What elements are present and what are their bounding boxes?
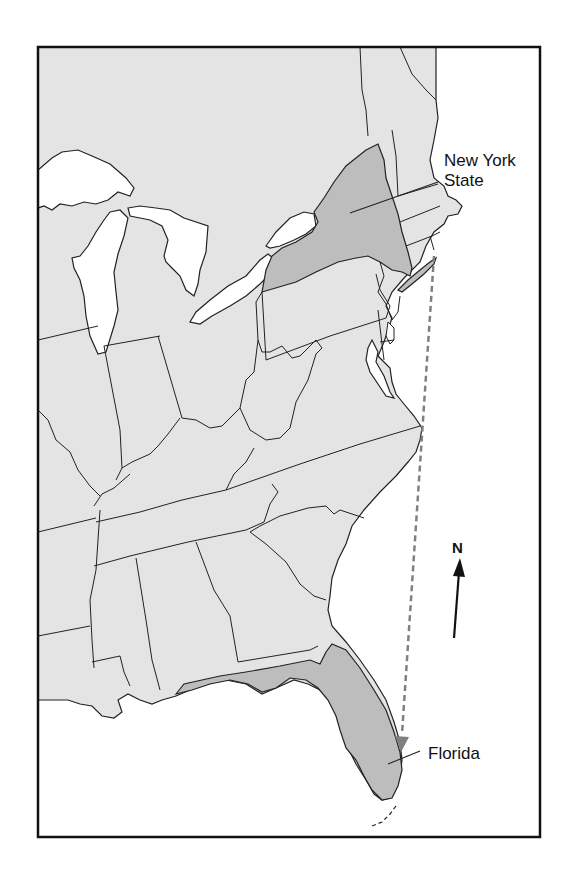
map-figure: New York State Florida N bbox=[0, 0, 578, 874]
north-label: N bbox=[452, 539, 463, 556]
new-york-state-label: New York State bbox=[444, 151, 516, 191]
new-york-label-line2: State bbox=[444, 171, 516, 191]
new-york-label-line1: New York bbox=[444, 151, 516, 171]
eastern-us-map bbox=[0, 0, 578, 874]
florida-label: Florida bbox=[428, 744, 480, 764]
